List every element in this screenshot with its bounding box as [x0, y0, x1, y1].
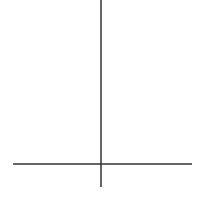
graph	[0, 0, 202, 211]
